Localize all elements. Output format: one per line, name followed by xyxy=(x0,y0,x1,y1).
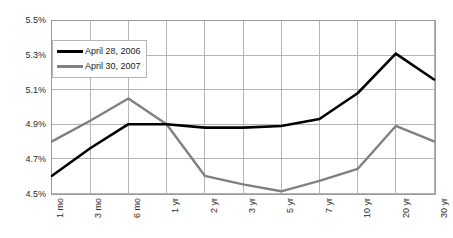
series-line xyxy=(52,98,434,191)
x-axis: 1 mo3 mo6 mo1 yr2 yr3 yr5 yr7 yr10 yr20 … xyxy=(0,196,453,238)
y-axis-tick-label: 5.1% xyxy=(25,85,46,95)
legend: April 28, 2006 April 30, 2007 xyxy=(52,40,147,78)
legend-label-series-1: April 30, 2007 xyxy=(85,62,141,71)
yield-curve-chart: 4.5%4.7%4.9%5.1%5.3%5.5% 1 mo3 mo6 mo1 y… xyxy=(0,0,453,238)
legend-item: April 28, 2006 xyxy=(57,44,142,59)
y-axis-tick-label: 4.9% xyxy=(25,119,46,129)
x-axis-tick-label: 20 yr xyxy=(401,198,411,218)
legend-swatch-series-1 xyxy=(57,65,83,68)
x-axis-tick-label: 10 yr xyxy=(362,198,372,218)
legend-item: April 30, 2007 xyxy=(57,59,142,74)
x-axis-tick-label: 30 yr xyxy=(439,198,449,218)
y-axis-tick-label: 5.3% xyxy=(25,50,46,60)
x-axis-tick-label: 3 yr xyxy=(247,198,257,213)
x-axis-tick-label: 1 yr xyxy=(170,198,180,213)
legend-label-series-0: April 28, 2006 xyxy=(85,47,141,56)
x-axis-tick-label: 5 yr xyxy=(285,198,295,213)
x-axis-tick-label: 7 yr xyxy=(324,198,334,213)
y-axis-tick-label: 5.5% xyxy=(25,15,46,25)
x-axis-tick-label: 6 mo xyxy=(132,198,142,218)
x-axis-tick-label: 1 mo xyxy=(55,198,65,218)
x-axis-tick-label: 3 mo xyxy=(93,198,103,218)
x-axis-tick-label: 2 yr xyxy=(209,198,219,213)
y-axis-tick-label: 4.7% xyxy=(25,154,46,164)
legend-swatch-series-0 xyxy=(57,50,83,53)
